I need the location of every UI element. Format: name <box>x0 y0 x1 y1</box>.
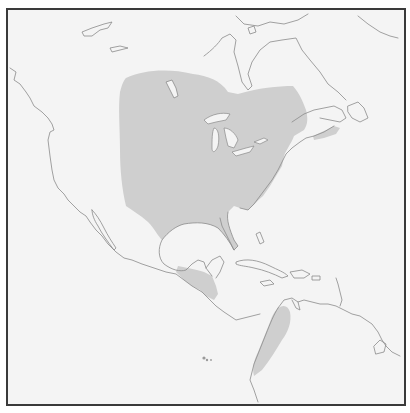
coastline-arctic <box>236 14 308 26</box>
coastline-south-america-north <box>278 298 400 356</box>
island-cuba <box>236 260 288 278</box>
island-puerto-rico <box>312 276 320 280</box>
island-jamaica <box>260 280 274 286</box>
island-arctic-2 <box>110 46 128 52</box>
island-hudson-1 <box>248 26 256 34</box>
islands-galapagos <box>202 356 212 361</box>
map-svg <box>8 10 404 404</box>
coastline-newfoundland <box>348 102 368 122</box>
island-hispaniola <box>290 270 310 278</box>
range-area-north-america <box>119 71 307 250</box>
coastline-amazon-mouth <box>374 340 386 354</box>
coastline-labrador <box>358 16 398 38</box>
range-map <box>6 8 406 406</box>
range-area-nova-scotia <box>313 126 340 140</box>
island-arctic-1 <box>82 22 112 36</box>
range-area-south-america <box>253 306 290 376</box>
island-bahamas <box>256 232 264 244</box>
islands-lesser-antilles <box>336 278 342 306</box>
